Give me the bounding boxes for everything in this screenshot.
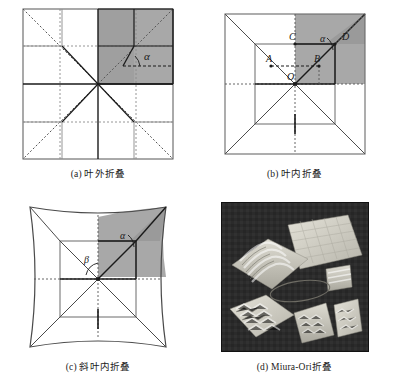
panel-c-caption: (c) 斜叶内折叠 — [66, 362, 131, 372]
vertex-dot-d — [333, 42, 336, 45]
folded-sample-right — [334, 299, 362, 337]
vertex-dot-c — [293, 42, 296, 45]
panel-d: (d) Miura-Ori折叠 — [196, 193, 393, 386]
vertex-dot-center — [96, 277, 100, 281]
photo-contents — [222, 203, 368, 351]
panel-a-caption: (a) 叶外折叠 — [71, 169, 126, 179]
panel-d-artwork — [196, 193, 393, 361]
angle-label-beta: β — [83, 254, 89, 265]
vertex-dot-a — [269, 64, 272, 67]
leaf-out-fold-crease-pattern: α — [18, 4, 178, 164]
vertex-dot-o — [293, 82, 297, 86]
ray-o-se — [295, 84, 335, 124]
point-label-c: C — [289, 31, 296, 42]
panel-b: α A B C D O (b) 叶内折叠 — [196, 0, 393, 193]
point-label-a: A — [265, 53, 273, 64]
panel-b-artwork: α A B C D O — [196, 0, 393, 168]
angle-label-alpha: α — [120, 230, 126, 241]
panel-a: α (a) 叶外折叠 — [0, 0, 196, 193]
miura-ori-photograph — [221, 202, 369, 352]
vertex-dot-b — [317, 64, 320, 67]
angle-label-alpha: α — [320, 33, 326, 44]
ray-o-sw — [255, 84, 295, 124]
fold-diagonal-br — [98, 84, 134, 122]
leaf-in-fold-crease-pattern: α A B C D O — [215, 4, 375, 164]
angle-label-alpha: α — [144, 50, 150, 62]
corner-connector-nw — [30, 207, 60, 241]
point-label-d: D — [341, 31, 350, 42]
point-label-o: O — [287, 71, 294, 82]
fold-diagonal-tl — [62, 46, 98, 84]
ray-center-sw — [60, 279, 98, 317]
ray-center-se — [98, 279, 136, 317]
fold-diagonal-bl — [62, 84, 98, 122]
figure-grid: α (a) 叶外折叠 — [0, 0, 393, 386]
panel-a-artwork: α — [0, 0, 196, 168]
point-label-b: B — [314, 53, 320, 64]
corner-connector-se — [136, 317, 166, 347]
corner-connector-sw — [30, 317, 60, 347]
ray-center-nw — [60, 241, 98, 279]
panel-c: β α (c) 斜叶内折叠 — [0, 193, 196, 386]
oblique-leaf-in-fold-crease-pattern: β α — [18, 197, 178, 357]
panel-c-artwork: β α — [0, 193, 196, 361]
panel-d-caption: (d) Miura-Ori折叠 — [257, 362, 333, 372]
panel-b-caption: (b) 叶内折叠 — [267, 169, 322, 179]
